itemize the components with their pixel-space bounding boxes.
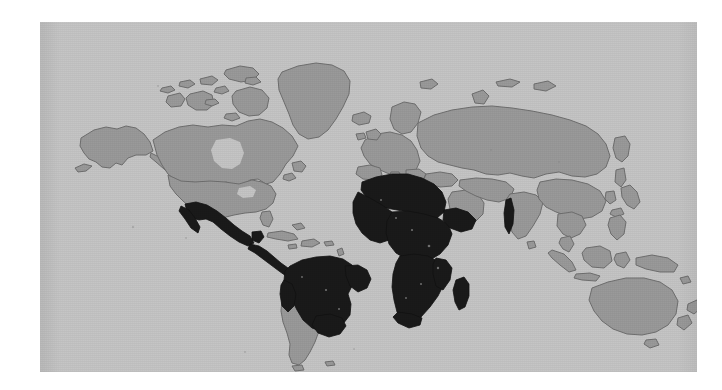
region-sri-lanka [527, 241, 536, 249]
region-jamaica [288, 244, 297, 249]
region-puerto-rico [324, 241, 334, 246]
world-map-svg [40, 22, 697, 372]
region-falklands [325, 361, 335, 366]
world-map-figure [40, 22, 697, 372]
